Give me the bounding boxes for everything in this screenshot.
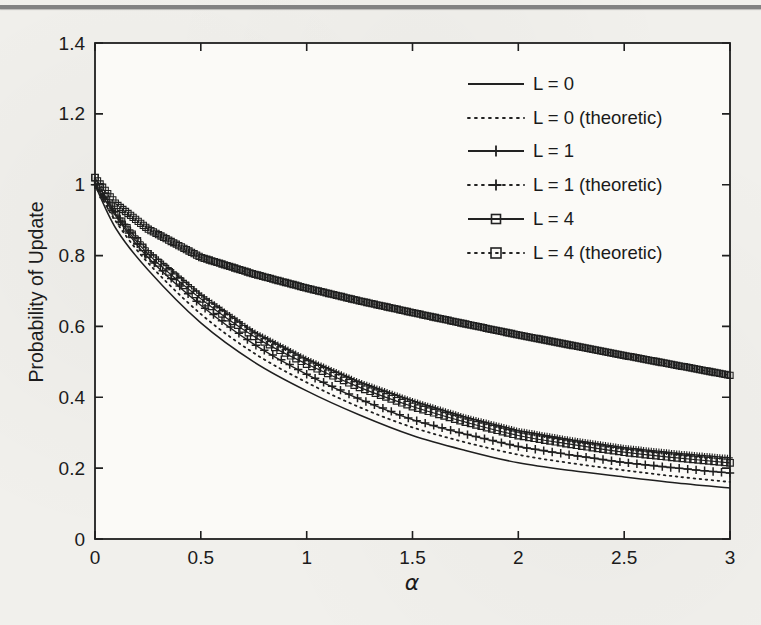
legend-glyph-solid-line bbox=[467, 75, 525, 93]
legend-entry-l4: L = 4 bbox=[455, 202, 662, 236]
svg-text:1.2: 1.2 bbox=[59, 103, 85, 124]
legend-glyph-dotted-line bbox=[467, 109, 525, 127]
svg-text:0.2: 0.2 bbox=[59, 458, 85, 479]
legend-entry-l4-theoretic: L = 4 (theoretic) bbox=[455, 236, 662, 270]
legend-label: L = 1 bbox=[533, 140, 574, 162]
svg-text:0.8: 0.8 bbox=[59, 245, 85, 266]
svg-text:0: 0 bbox=[90, 547, 101, 568]
legend-label: L = 4 bbox=[533, 208, 574, 230]
svg-text:1: 1 bbox=[301, 547, 312, 568]
legend: L = 0 L = 0 (theoretic) L = 1 L = 1 (the… bbox=[455, 67, 662, 270]
svg-text:2.5: 2.5 bbox=[611, 547, 637, 568]
legend-entry-l0: L = 0 bbox=[455, 67, 662, 101]
legend-glyph-dotted-square bbox=[467, 244, 525, 262]
legend-label: L = 0 (theoretic) bbox=[533, 107, 662, 129]
svg-text:1: 1 bbox=[74, 174, 85, 195]
svg-text:0.4: 0.4 bbox=[59, 387, 86, 408]
x-axis-label: α bbox=[405, 570, 420, 595]
legend-glyph-solid-plus bbox=[467, 142, 525, 160]
svg-text:0.5: 0.5 bbox=[188, 547, 214, 568]
legend-label: L = 1 (theoretic) bbox=[533, 174, 662, 196]
legend-entry-l0-theoretic: L = 0 (theoretic) bbox=[455, 101, 662, 135]
svg-text:2: 2 bbox=[513, 547, 524, 568]
svg-text:0.6: 0.6 bbox=[59, 316, 85, 337]
legend-glyph-dotted-plus bbox=[467, 176, 525, 194]
y-axis-label: Probability of Update bbox=[25, 201, 48, 382]
svg-text:3: 3 bbox=[725, 547, 736, 568]
legend-glyph-solid-square bbox=[467, 210, 525, 228]
legend-entry-l1-theoretic: L = 1 (theoretic) bbox=[455, 168, 662, 202]
legend-entry-l1: L = 1 bbox=[455, 135, 662, 169]
svg-text:1.4: 1.4 bbox=[59, 33, 86, 54]
svg-text:1.5: 1.5 bbox=[399, 547, 425, 568]
svg-text:0: 0 bbox=[74, 529, 85, 550]
scanned-page: 00.511.522.5300.20.40.60.811.21.4 Probab… bbox=[0, 0, 761, 625]
legend-label: L = 0 bbox=[533, 73, 574, 95]
legend-label: L = 4 (theoretic) bbox=[533, 242, 662, 264]
